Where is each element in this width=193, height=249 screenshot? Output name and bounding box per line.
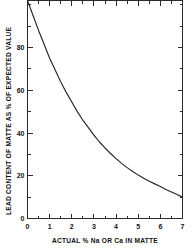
y-axis-minor-ticks bbox=[28, 5, 183, 197]
x-tick-label: 0 bbox=[26, 223, 30, 230]
x-axis-label: ACTUAL % Na OR Ca IN MATTE bbox=[52, 237, 158, 244]
x-tick-label: 1 bbox=[48, 223, 52, 230]
x-tick-label: 5 bbox=[136, 223, 140, 230]
data-series-line bbox=[28, 1, 183, 198]
x-axis-minor-ticks bbox=[39, 1, 172, 219]
chart-figure: 020406080 01234567 LEAD CONTENT OF MATTE… bbox=[0, 0, 193, 249]
y-tick-label: 20 bbox=[17, 172, 25, 179]
y-tick-label: 60 bbox=[17, 87, 25, 94]
y-tick-label: 80 bbox=[17, 44, 25, 51]
y-tick-label: 0 bbox=[21, 215, 25, 222]
chart-canvas: 020406080 01234567 LEAD CONTENT OF MATTE… bbox=[0, 0, 193, 249]
x-axis-tick-labels: 01234567 bbox=[26, 223, 185, 230]
y-axis-tick-labels: 020406080 bbox=[17, 44, 25, 222]
x-tick-label: 3 bbox=[92, 223, 96, 230]
y-axis-label: LEAD CONTENT OF MATTE AS % OF EXPECTED V… bbox=[5, 26, 12, 215]
y-axis-major-ticks bbox=[28, 48, 183, 219]
x-tick-label: 6 bbox=[158, 223, 162, 230]
x-tick-label: 2 bbox=[70, 223, 74, 230]
x-tick-label: 4 bbox=[114, 223, 118, 230]
y-tick-label: 40 bbox=[17, 130, 25, 137]
x-tick-label: 7 bbox=[181, 223, 185, 230]
